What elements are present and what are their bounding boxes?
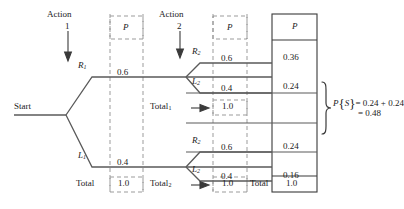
total-2-arrow bbox=[191, 182, 209, 189]
result-brace bbox=[322, 82, 331, 134]
action-1-arrow bbox=[65, 31, 72, 61]
node-L2-upper: L2 bbox=[192, 77, 200, 86]
annotation-line2: = 0.48 bbox=[358, 109, 381, 118]
lower-total-text: Total bbox=[150, 178, 168, 188]
node-L1: L1 bbox=[78, 151, 86, 160]
action-2-number: 2 bbox=[177, 22, 182, 31]
joint-p-R1R2: 0.36 bbox=[283, 53, 299, 62]
lower-total-label: Total2 bbox=[150, 179, 171, 188]
node-L2-upper-subscript: 2 bbox=[197, 80, 200, 86]
node-R1-subscript: 1 bbox=[84, 64, 87, 70]
total-1-arrow bbox=[191, 105, 209, 112]
node-R1: R1 bbox=[78, 61, 87, 70]
lower-total-subscript: 2 bbox=[168, 182, 171, 188]
stage1-p-R1: 0.6 bbox=[117, 68, 128, 77]
stage2-p-R2-lower: 0.6 bbox=[221, 143, 232, 152]
node-L2-lower: L2 bbox=[192, 165, 200, 174]
node-L2-lower-subscript: 2 bbox=[197, 168, 200, 174]
node-R2-upper: R2 bbox=[192, 47, 201, 56]
start-node-label: Start bbox=[14, 102, 31, 111]
stage1-p-L1: 0.4 bbox=[117, 158, 128, 167]
action-1-number: 1 bbox=[65, 22, 70, 31]
action-2-label: Action bbox=[159, 10, 184, 19]
stage2-p-header: P bbox=[227, 23, 233, 32]
joint-p-header: P bbox=[292, 22, 298, 31]
upper-total-label: Total1 bbox=[150, 102, 171, 111]
action-1-label: Action bbox=[47, 10, 72, 19]
node-L1-subscript: 1 bbox=[83, 154, 86, 160]
branch-R2-upper bbox=[186, 63, 272, 77]
stage1-total-label: Total bbox=[76, 179, 94, 188]
lower-total-value: 1.0 bbox=[222, 179, 233, 188]
upper-total-text: Total bbox=[150, 101, 168, 111]
annotation-line1: = 0.24 + 0.24 bbox=[356, 98, 404, 108]
node-R2-lower: R2 bbox=[192, 136, 201, 145]
upper-total-value: 1.0 bbox=[222, 102, 233, 111]
joint-total-label: Total bbox=[250, 179, 268, 188]
joint-p-L1R2: 0.24 bbox=[283, 142, 299, 151]
node-R2-upper-subscript: 2 bbox=[198, 50, 201, 56]
upper-total-subscript: 1 bbox=[168, 105, 171, 111]
joint-total-value: 1.0 bbox=[286, 179, 297, 188]
node-R2-lower-subscript: 2 bbox=[198, 139, 201, 145]
stage2-p-L2-upper: 0.4 bbox=[221, 84, 232, 93]
stage2-p-R2-upper: 0.6 bbox=[221, 54, 232, 63]
joint-p-column-box bbox=[272, 14, 317, 192]
stage1-p-header: P bbox=[123, 23, 129, 32]
action-2-arrow bbox=[177, 31, 184, 58]
joint-p-R1L2: 0.24 bbox=[283, 82, 299, 91]
stage1-total-value: 1.0 bbox=[118, 179, 129, 188]
